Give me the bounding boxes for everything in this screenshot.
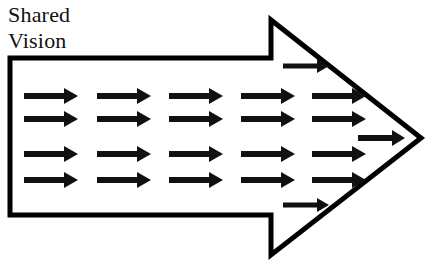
diagram-canvas: Shared Vision [0,0,439,266]
shared-vision-arrow-diagram [0,0,439,266]
